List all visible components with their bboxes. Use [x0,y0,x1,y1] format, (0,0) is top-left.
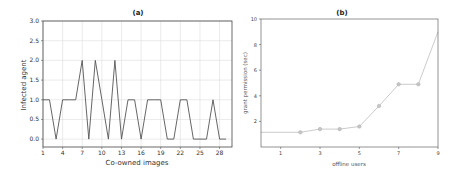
chart-a-xlabel: Co-owned images [106,159,169,167]
x-tick-label: 7 [397,150,400,156]
y-tick-label: 4 [254,93,257,99]
data-marker [358,125,362,129]
chart-b-xlabel: offline users [332,161,366,167]
x-tick-label: 28 [216,149,224,156]
data-line [261,32,438,133]
y-tick-label: 0.0 [29,135,39,142]
chart-a-grid [43,21,232,147]
y-tick-label: 10 [251,16,257,22]
y-tick-label: 8 [254,42,257,48]
x-tick-label: 22 [177,149,185,156]
data-marker [299,130,303,134]
y-tick-label: 2 [254,118,257,124]
x-tick-label: 16 [137,149,145,156]
x-tick-label: 25 [196,149,204,156]
chart-a-x-ticks: 14710131619222528 [41,147,223,156]
chart-a-frame [43,21,232,147]
chart-b-y-ticks: 246810 [251,16,261,124]
x-tick-label: 13 [118,149,126,156]
x-tick-label: 9 [436,150,439,156]
y-tick-label: 6 [254,67,257,73]
x-tick-label: 4 [61,149,65,156]
x-tick-label: 1 [41,149,45,156]
y-tick-label: 1.0 [29,96,39,103]
data-marker [338,127,342,131]
chart-a-ylabel: Infected agent [20,59,28,110]
figure: (a) 14710131619222528 0.00.51.01.52.02.5… [0,0,456,175]
chart-b: (b) 13579 246810 offline users grant per… [242,9,440,167]
y-tick-label: 2.0 [29,56,39,63]
chart-a-y-ticks: 0.00.51.01.52.02.53.0 [29,17,43,142]
y-tick-label: 3.0 [29,17,39,24]
x-tick-label: 3 [318,150,321,156]
data-marker [417,82,421,86]
data-marker [397,82,401,86]
y-tick-label: 0.5 [29,115,39,122]
chart-a-title: (a) [132,9,143,17]
chart-b-markers [299,82,421,134]
x-tick-label: 19 [157,149,165,156]
x-tick-label: 7 [80,149,84,156]
data-marker [377,104,381,108]
chart-a: (a) 14710131619222528 0.00.51.01.52.02.5… [20,9,232,167]
chart-b-ylabel: grant permission (sec) [242,52,249,114]
x-tick-label: 1 [279,150,282,156]
chart-b-line [261,32,438,133]
x-tick-label: 5 [358,150,361,156]
x-tick-label: 10 [98,149,106,156]
y-tick-label: 2.5 [29,37,39,44]
chart-b-title: (b) [336,9,347,17]
data-marker [318,127,322,131]
chart-b-x-ticks: 13579 [279,147,440,156]
y-tick-label: 1.5 [29,76,39,83]
